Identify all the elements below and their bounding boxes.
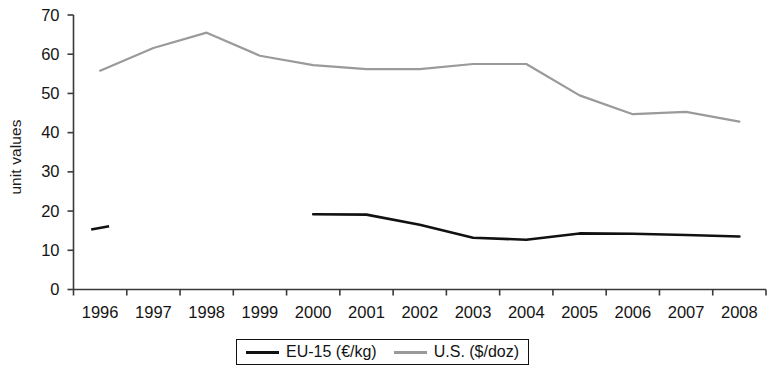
data-series-group [91,33,739,240]
unit-values-line-chart: unit values 010203040506070 199619971998… [0,0,770,368]
data-line [313,214,739,239]
data-segment [91,226,109,229]
legend-line-swatch-us [394,351,427,354]
data-line [100,33,739,122]
data-series-us [100,33,739,122]
legend-line-swatch-eu15 [246,351,279,354]
chart-legend: EU-15 (€/kg) U.S. ($/doz) [236,339,529,365]
y-axis-ticks [68,15,74,290]
data-series-eu15 [91,214,739,239]
legend-label-eu15: EU-15 (€/kg) [286,343,377,361]
axes [68,15,767,296]
legend-item-us: U.S. ($/doz) [394,343,519,361]
legend-item-eu15: EU-15 (€/kg) [246,343,377,361]
plot-area [0,0,770,368]
legend-label-us: U.S. ($/doz) [434,343,519,361]
x-axis-ticks [74,290,767,296]
